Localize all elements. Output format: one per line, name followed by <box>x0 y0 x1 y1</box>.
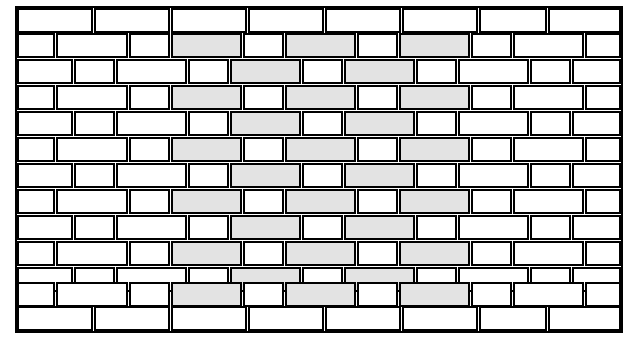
plain-brick-7-5 <box>303 216 342 239</box>
plain-brick-7-8 <box>459 216 528 239</box>
plain-brick-10-8 <box>472 283 511 306</box>
plain-brick-8-10 <box>586 242 620 265</box>
plain-brick-2-0 <box>18 86 54 109</box>
shaded-brick-4-7 <box>400 138 469 161</box>
plain-brick-2-6 <box>358 86 397 109</box>
plain-brick-3-7 <box>417 112 456 135</box>
plain-brick-3-8 <box>459 112 528 135</box>
plain-brick-5-5 <box>303 164 342 187</box>
plain-brick-10-4 <box>244 283 283 306</box>
shaded-brick-4-3 <box>172 138 241 161</box>
plain-brick-6-9 <box>514 190 583 213</box>
plain-brick-7-2 <box>117 216 186 239</box>
plain-brick-3-9 <box>531 112 570 135</box>
top-course-brick-0 <box>18 9 92 32</box>
plain-brick-5-1 <box>75 164 114 187</box>
pattern-row-2 <box>18 86 620 109</box>
bottom-course-brick-3 <box>249 307 323 330</box>
top-course-brick-4 <box>326 9 400 32</box>
pattern-row-10 <box>18 283 620 306</box>
pattern-row-6 <box>18 190 620 213</box>
plain-brick-6-0 <box>18 190 54 213</box>
plain-brick-0-2 <box>130 34 169 57</box>
bottom-course-brick-7 <box>549 307 620 330</box>
plain-brick-5-2 <box>117 164 186 187</box>
plain-brick-1-7 <box>417 60 456 83</box>
plain-brick-1-8 <box>459 60 528 83</box>
plain-brick-0-10 <box>586 34 620 57</box>
plain-brick-3-0 <box>18 112 72 135</box>
plain-brick-6-8 <box>472 190 511 213</box>
plain-brick-7-10 <box>573 216 620 239</box>
shaded-brick-5-4 <box>231 164 300 187</box>
shaded-brick-0-7 <box>400 34 469 57</box>
plain-brick-8-6 <box>358 242 397 265</box>
plain-brick-4-1 <box>57 138 127 161</box>
plain-brick-2-4 <box>244 86 283 109</box>
shaded-brick-6-3 <box>172 190 241 213</box>
shaded-brick-10-3 <box>172 283 241 306</box>
plain-brick-8-2 <box>130 242 169 265</box>
pattern-row-4 <box>18 138 620 161</box>
shaded-brick-3-4 <box>231 112 300 135</box>
plain-brick-3-1 <box>75 112 114 135</box>
shaded-brick-8-7 <box>400 242 469 265</box>
plain-brick-8-4 <box>244 242 283 265</box>
plain-brick-1-9 <box>531 60 570 83</box>
plain-brick-6-1 <box>57 190 127 213</box>
shaded-brick-2-7 <box>400 86 469 109</box>
shaded-brick-1-6 <box>345 60 414 83</box>
plain-brick-8-0 <box>18 242 54 265</box>
top-course-brick-5 <box>403 9 477 32</box>
bottom-border-course <box>18 307 620 330</box>
pattern-row-0 <box>18 34 620 57</box>
figure-canvas <box>0 0 638 350</box>
plain-brick-0-1 <box>57 34 127 57</box>
plain-brick-4-10 <box>586 138 620 161</box>
shaded-brick-8-5 <box>286 242 355 265</box>
plain-brick-6-4 <box>244 190 283 213</box>
plain-brick-5-8 <box>459 164 528 187</box>
shaded-brick-2-5 <box>286 86 355 109</box>
plain-brick-2-10 <box>586 86 620 109</box>
bottom-course-brick-2 <box>172 307 246 330</box>
shaded-brick-10-7 <box>400 283 469 306</box>
plain-brick-2-1 <box>57 86 127 109</box>
top-border-course <box>18 9 620 32</box>
plain-brick-7-3 <box>189 216 228 239</box>
plain-brick-4-2 <box>130 138 169 161</box>
shaded-brick-1-4 <box>231 60 300 83</box>
plain-brick-5-3 <box>189 164 228 187</box>
top-course-brick-6 <box>480 9 546 32</box>
plain-brick-7-0 <box>18 216 72 239</box>
top-course-brick-7 <box>549 9 620 32</box>
bottom-course-brick-5 <box>403 307 477 330</box>
plain-brick-6-2 <box>130 190 169 213</box>
plain-brick-10-10 <box>586 283 620 306</box>
shaded-brick-7-4 <box>231 216 300 239</box>
bottom-course-brick-4 <box>326 307 400 330</box>
plain-brick-10-9 <box>514 283 583 306</box>
shaded-brick-6-5 <box>286 190 355 213</box>
top-course-brick-1 <box>95 9 169 32</box>
plain-brick-10-2 <box>130 283 169 306</box>
plain-brick-4-9 <box>514 138 583 161</box>
shaded-brick-7-6 <box>345 216 414 239</box>
plain-brick-0-8 <box>472 34 511 57</box>
plain-brick-0-9 <box>514 34 583 57</box>
plain-brick-5-0 <box>18 164 72 187</box>
plain-brick-2-9 <box>514 86 583 109</box>
shaded-brick-0-3 <box>172 34 241 57</box>
shaded-brick-10-5 <box>286 283 355 306</box>
shaded-brick-8-3 <box>172 242 241 265</box>
plain-brick-5-9 <box>531 164 570 187</box>
shaded-brick-3-6 <box>345 112 414 135</box>
plain-brick-2-2 <box>130 86 169 109</box>
plain-brick-6-10 <box>586 190 620 213</box>
plain-brick-3-3 <box>189 112 228 135</box>
bottom-course-brick-0 <box>18 307 92 330</box>
shaded-brick-0-5 <box>286 34 355 57</box>
shaded-brick-5-6 <box>345 164 414 187</box>
plain-brick-1-0 <box>18 60 72 83</box>
pattern-row-8 <box>18 242 620 265</box>
